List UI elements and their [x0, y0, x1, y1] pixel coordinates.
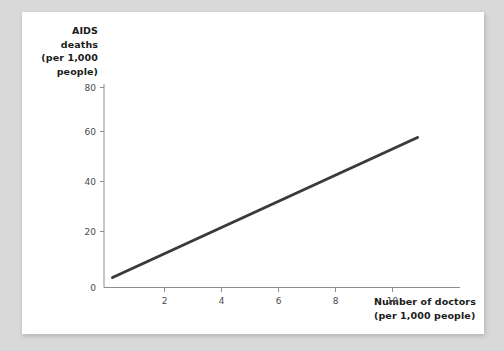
trend-line — [113, 138, 418, 278]
y-axis-ticks — [100, 88, 104, 232]
x-tick-labels: 2 4 6 8 10 — [162, 296, 399, 306]
y-tick-label-80: 80 — [85, 83, 97, 93]
y-tick-label-0: 0 — [90, 283, 96, 293]
data-series-trend — [113, 138, 418, 278]
x-tick-label-8: 8 — [333, 296, 339, 306]
y-tick-label-60: 60 — [85, 127, 97, 137]
plot-svg: 80 60 40 20 0 2 4 6 8 10 — [22, 12, 484, 334]
x-axis-ticks — [165, 288, 393, 293]
x-tick-label-4: 4 — [219, 296, 225, 306]
y-tick-label-40: 40 — [85, 177, 97, 187]
x-tick-label-2: 2 — [162, 296, 168, 306]
x-tick-label-10: 10 — [387, 296, 399, 306]
chart-area: AIDS deaths (per 1,000 people) Number of… — [22, 12, 484, 334]
y-tick-labels: 80 60 40 20 0 — [85, 83, 97, 293]
x-tick-label-6: 6 — [276, 296, 282, 306]
chart-card: AIDS deaths (per 1,000 people) Number of… — [22, 12, 484, 334]
screenshot-root: AIDS deaths (per 1,000 people) Number of… — [0, 0, 504, 351]
y-tick-label-20: 20 — [85, 227, 97, 237]
